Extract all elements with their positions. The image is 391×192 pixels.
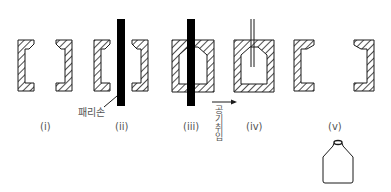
mold-half-right [132,40,148,91]
blow-molding-diagram [0,0,391,192]
stage-v-mold [294,40,374,91]
mold-half-left [294,40,314,91]
finished-bottle [323,141,353,184]
air-blow-label: 공기취입 [213,105,223,141]
bottle-neck [334,141,342,145]
air-arrow-head [231,100,237,105]
bottle-outline [323,142,353,183]
mold-half-right [56,40,72,91]
mold-half-left [18,40,34,91]
parison-label: 패리손 [78,104,105,119]
stage-iii-mold [172,19,237,106]
stage-iv-mold [234,19,274,92]
stage-label-ii: (ii) [115,121,128,132]
stage-label-iv: (iv) [246,121,263,132]
parison [187,19,195,106]
stage-i-mold [18,40,72,91]
stage-ii-mold [94,19,148,107]
stage-label-v: (v) [328,121,342,132]
stage-label-iii: (iii) [183,121,199,132]
stage-label-i: (i) [40,121,51,132]
mold-half-right [354,40,374,91]
mold-half-left [94,40,110,91]
parison [117,19,125,106]
parison-leader-line [104,96,117,107]
